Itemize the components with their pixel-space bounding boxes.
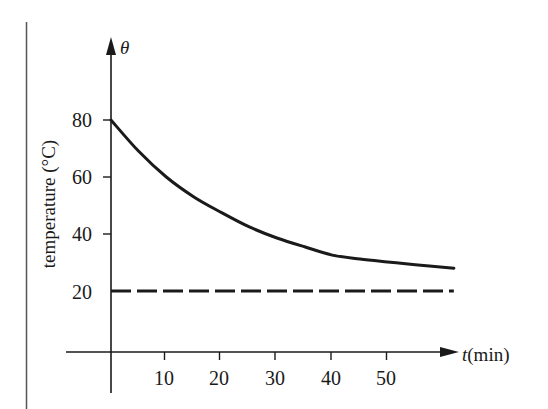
- x-tick-labels: 10 20 30 40 50: [154, 367, 396, 389]
- x-tick-label: 30: [265, 367, 285, 389]
- x-tick-label: 10: [154, 367, 174, 389]
- y-tick-label: 80: [72, 109, 92, 131]
- x-axis-label: t(min): [462, 344, 510, 366]
- y-axis-arrow-icon: [106, 37, 116, 55]
- chart-svg: θ t(min) 80 60 40 20 10 20 30: [0, 0, 548, 409]
- y-tick-label: 40: [72, 223, 92, 245]
- cooling-curve: [111, 120, 454, 268]
- y-tick-labels: 80 60 40 20: [72, 109, 92, 303]
- x-tick-label: 50: [376, 367, 396, 389]
- x-axis-arrow-icon: [440, 347, 459, 357]
- y-ticks: [103, 120, 111, 234]
- y-tick-label: 20: [72, 281, 92, 303]
- cooling-curve-figure: θ t(min) 80 60 40 20 10 20 30: [0, 0, 548, 409]
- x-tick-label: 20: [209, 367, 229, 389]
- x-tick-label: 40: [321, 367, 341, 389]
- y-tick-label: 60: [72, 166, 92, 188]
- y-axis-symbol: θ: [120, 37, 129, 58]
- y-axis-label: temperature (°C): [38, 140, 60, 268]
- x-ticks: [165, 352, 387, 360]
